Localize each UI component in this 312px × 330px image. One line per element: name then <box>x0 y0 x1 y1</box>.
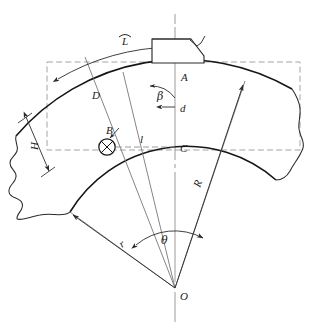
label-angle-beta: β <box>156 90 163 103</box>
radius-R-dimension <box>175 85 243 288</box>
label-height-h: H <box>28 141 40 151</box>
label-arc-length-L: L <box>121 35 128 47</box>
label-point-a: A <box>180 71 188 83</box>
label-distance-l: l <box>140 133 143 145</box>
right-break-edge <box>276 89 303 180</box>
hole-symbol-b <box>99 139 115 155</box>
label-point-b: B <box>106 124 113 136</box>
outer-arc <box>16 60 292 136</box>
diagram-canvas: L A β d D B l C H R r θ O <box>0 0 312 330</box>
inner-arc <box>70 146 276 212</box>
label-angle-theta: θ <box>161 234 168 247</box>
label-radius-outer-R: R <box>190 178 204 190</box>
label-point-o: O <box>180 290 188 302</box>
top-trapezoid-block <box>152 39 204 63</box>
cad-drawing: L A β d D B l C H R r θ O <box>0 0 312 330</box>
label-chord-d-upper: D <box>91 89 100 101</box>
label-radius-inner-r: r <box>116 237 127 250</box>
label-diameter-d: d <box>180 102 186 114</box>
label-point-c: C <box>180 142 188 154</box>
